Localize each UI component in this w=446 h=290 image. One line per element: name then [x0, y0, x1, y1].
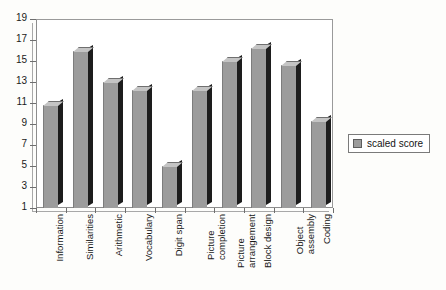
- y-tick-label: 13: [16, 75, 27, 87]
- bar-side-face: [58, 99, 63, 205]
- y-tick-label: 5: [21, 159, 27, 171]
- x-axis-label: Digit span: [173, 214, 184, 256]
- bar: [162, 166, 177, 208]
- x-tick: [155, 208, 156, 213]
- x-tick: [244, 208, 245, 213]
- bar-side-face: [88, 44, 93, 205]
- y-tick-label: 7: [21, 138, 27, 150]
- x-tick: [303, 208, 304, 213]
- bar-front-face: [192, 90, 207, 208]
- bar-body: [192, 90, 207, 208]
- bar-side-face: [237, 55, 242, 205]
- bar: [222, 61, 237, 208]
- x-axis-labels: InformationSimilaritiesArithmeticVocabul…: [36, 214, 333, 290]
- legend-swatch-scaled-score: [353, 139, 362, 148]
- x-axis-label: Vocabulary: [143, 214, 154, 261]
- x-axis-label: Picturearrangement: [235, 214, 257, 268]
- x-axis-label-line: Block design: [262, 214, 273, 268]
- bar-front-face: [222, 61, 237, 208]
- bar-body: [311, 121, 326, 208]
- bar-body: [162, 166, 177, 208]
- bar-side-face: [177, 160, 182, 205]
- x-tick: [95, 208, 96, 213]
- bar-front-face: [311, 121, 326, 208]
- bar-side-face: [326, 115, 331, 205]
- bar-side-face: [296, 59, 301, 205]
- bar-front-face: [73, 51, 88, 209]
- bar: [192, 90, 207, 208]
- x-axis-label-line: Digit span: [173, 214, 184, 256]
- x-axis-label: Objectassembly: [294, 214, 316, 254]
- bar-body: [222, 61, 237, 208]
- x-axis-label-line: Picture: [235, 214, 246, 268]
- bar-body: [281, 65, 296, 208]
- x-axis-label-line: Picture: [205, 214, 216, 260]
- bar: [103, 82, 118, 208]
- x-axis-label-line: assembly: [305, 214, 316, 254]
- x-axis-label-line: Object: [294, 214, 305, 254]
- x-axis-label-line: Information: [54, 214, 65, 262]
- bar-side-face: [147, 84, 152, 205]
- y-tick-label: 1: [21, 201, 27, 213]
- bar-series-scaled-score: [36, 19, 333, 208]
- x-axis-label: Picturecompletion: [205, 214, 227, 260]
- y-tick-label: 19: [16, 12, 27, 24]
- bar-front-face: [103, 82, 118, 208]
- x-tick: [36, 208, 37, 213]
- bar-chart: 135791113151719 InformationSimilaritiesA…: [0, 0, 446, 290]
- bar: [311, 121, 326, 208]
- bar-body: [132, 90, 147, 208]
- x-tick: [333, 208, 334, 213]
- bar-front-face: [43, 105, 58, 208]
- y-tick-label: 15: [16, 54, 27, 66]
- legend-label-scaled-score: scaled score: [367, 138, 423, 149]
- bar: [251, 48, 266, 208]
- x-axis-label-line: Coding: [321, 214, 332, 244]
- bar: [73, 51, 88, 209]
- legend: scaled score: [348, 134, 430, 153]
- bar: [281, 65, 296, 208]
- y-tick-label: 17: [16, 33, 27, 45]
- x-axis-label-line: arrangement: [246, 214, 257, 268]
- bar-side-face: [118, 76, 123, 205]
- bar-side-face: [266, 42, 271, 205]
- x-tick: [125, 208, 126, 213]
- bar: [132, 90, 147, 208]
- x-axis-label-line: Arithmetic: [113, 214, 124, 256]
- x-axis-label-line: completion: [216, 214, 227, 260]
- x-tick: [66, 208, 67, 213]
- bar-front-face: [162, 166, 177, 208]
- bar: [43, 105, 58, 208]
- bar-body: [73, 51, 88, 209]
- x-tick: [185, 208, 186, 213]
- bar-body: [103, 82, 118, 208]
- bar-body: [43, 105, 58, 208]
- x-axis-label: Block design: [262, 214, 273, 268]
- x-tick: [274, 208, 275, 213]
- x-axis-label-line: Vocabulary: [143, 214, 154, 261]
- x-axis-label: Arithmetic: [113, 214, 124, 256]
- y-tick-label: 9: [21, 117, 27, 129]
- x-axis-label: Coding: [321, 214, 332, 244]
- y-tick-label: 11: [17, 96, 27, 108]
- x-tick: [214, 208, 215, 213]
- x-axis-label-line: Similarities: [84, 214, 95, 260]
- bar-front-face: [251, 48, 266, 208]
- bar-body: [251, 48, 266, 208]
- bar-front-face: [281, 65, 296, 208]
- x-axis-label: Information: [54, 214, 65, 262]
- x-axis-label: Similarities: [84, 214, 95, 260]
- y-tick-label: 3: [21, 180, 27, 192]
- bar-front-face: [132, 90, 147, 208]
- bar-side-face: [207, 84, 212, 205]
